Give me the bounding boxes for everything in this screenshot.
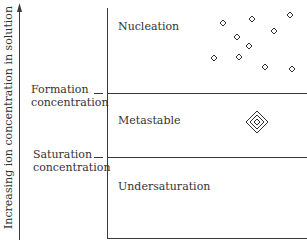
- small-diamond-icon: [211, 55, 217, 61]
- small-diamond-icon: [289, 66, 295, 72]
- saturation-level-label-2: concentration: [33, 161, 111, 174]
- saturation-label-line2: concentration: [33, 161, 111, 174]
- small-diamond-icon: [220, 20, 226, 26]
- small-diamond-icon: [249, 16, 255, 22]
- saturation-label-line1: Saturation: [33, 148, 92, 161]
- region-label-nucleation: Nucleation: [118, 20, 179, 33]
- formation-label-line2: concentration: [31, 96, 109, 109]
- small-diamond-icon: [234, 34, 240, 40]
- saturation-level-label: Saturation: [33, 148, 92, 161]
- small-diamond-icon: [271, 28, 277, 34]
- small-diamond-icon: [246, 43, 252, 49]
- region-label-metastable: Metastable: [118, 114, 180, 127]
- small-diamond-icon: [287, 12, 293, 18]
- region-label-undersaturation: Undersaturation: [118, 180, 210, 193]
- y-axis-label: Increasing ion concentration in solution: [2, 6, 15, 229]
- y-axis-arrow: [17, 3, 22, 240]
- formation-level-label-2: concentration: [31, 96, 109, 109]
- small-diamond-icon: [236, 54, 242, 60]
- formation-label-line1: Formation: [31, 83, 89, 96]
- formation-level-label: Formation: [31, 83, 89, 96]
- small-diamond-icon: [262, 64, 268, 70]
- small-diamond-icon-group: [211, 12, 295, 72]
- concentric-diamond-icon: [246, 111, 268, 133]
